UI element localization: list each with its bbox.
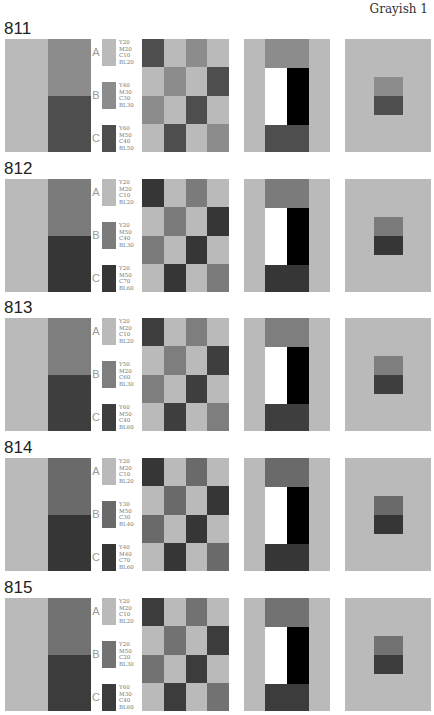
block-c [374, 96, 403, 115]
swatch-c: C Y60 M30 C40 BL60 [91, 684, 141, 711]
checker-cell [164, 458, 186, 486]
swatch-letter: C [91, 272, 101, 284]
checker-cell [164, 67, 186, 95]
checker-cell [207, 124, 229, 152]
inset-panel [345, 598, 431, 711]
checker-cell [186, 403, 208, 431]
contrast-panel [244, 598, 330, 711]
checker-cell [164, 207, 186, 235]
inset-panel [345, 179, 431, 292]
swatch-legend: A Y20 M20 C10 BL20 B Y50 M20 C60 BL30 C … [91, 318, 141, 431]
black-block [287, 68, 309, 125]
checker-cell [142, 543, 164, 571]
swatch-letter: C [91, 691, 101, 703]
block-b [374, 356, 403, 375]
contrast-panel [244, 179, 330, 292]
checker-cell [142, 179, 164, 207]
inset-panel [345, 458, 431, 571]
swatch-a: A Y20 M20 C10 BL20 [91, 458, 141, 485]
checker-cell [164, 683, 186, 711]
section-number: 814 [4, 439, 32, 457]
checker-cell [186, 375, 208, 403]
checker-cell [164, 124, 186, 152]
checker-cell [142, 403, 164, 431]
checker-cell [207, 67, 229, 95]
checker-cell [142, 486, 164, 514]
block-b [265, 458, 309, 487]
checker-cell [186, 626, 208, 654]
block-c [374, 375, 403, 394]
checker-cell [164, 96, 186, 124]
checker-cell [142, 236, 164, 264]
checker-cell [207, 179, 229, 207]
checker-cell [186, 458, 208, 486]
checker-cell [186, 515, 208, 543]
checker-cell [207, 458, 229, 486]
checker-cell [142, 318, 164, 346]
block-b [374, 217, 403, 236]
swatch-letter: C [91, 411, 101, 423]
checker-cell [142, 458, 164, 486]
swatch-legend: A Y20 M20 C10 BL20 B Y40 M30 C30 BL30 C … [91, 39, 141, 152]
block-b [374, 496, 403, 515]
checker-cell [142, 96, 164, 124]
checker-cell [164, 655, 186, 683]
swatch-chip [102, 125, 116, 152]
checker-cell [164, 179, 186, 207]
block-b [265, 179, 309, 208]
swatch-code: Y20 M20 C10 BL20 [119, 39, 134, 65]
black-block [287, 487, 309, 544]
swatch-chip [102, 684, 116, 711]
checker-cell [142, 39, 164, 67]
block-c [48, 655, 91, 711]
swatch-chip [102, 501, 116, 528]
white-block [265, 347, 287, 404]
checker-cell [207, 598, 229, 626]
checker-cell [142, 515, 164, 543]
swatch-letter: A [91, 605, 101, 617]
checkerboard-panel [142, 458, 229, 571]
checker-cell [207, 626, 229, 654]
swatch-chip [102, 598, 116, 625]
checker-cell [186, 486, 208, 514]
swatch-code: Y50 M20 C60 BL30 [119, 361, 134, 387]
checker-cell [186, 655, 208, 683]
checkerboard-panel [142, 318, 229, 431]
swatch-code: Y60 M50 C40 BL60 [119, 404, 134, 430]
checker-cell [186, 39, 208, 67]
inset-panel [345, 39, 431, 152]
swatch-c: C Y60 M50 C40 BL60 [91, 404, 141, 431]
checker-cell [142, 124, 164, 152]
white-block [265, 487, 287, 544]
swatch-letter: B [91, 368, 101, 380]
swatch-legend: A Y20 M20 C10 BL20 B Y20 M50 C40 BL30 C … [91, 179, 141, 292]
block-b [265, 598, 309, 627]
checker-cell [186, 96, 208, 124]
page-label: Grayish 1 [370, 2, 428, 16]
split-panel [5, 39, 91, 152]
swatch-chip [102, 179, 116, 206]
block-c [48, 515, 91, 571]
checker-cell [164, 543, 186, 571]
swatch-code: Y30 M50 C30 BL40 [119, 501, 134, 527]
checker-cell [164, 346, 186, 374]
checker-cell [186, 543, 208, 571]
checker-cell [207, 515, 229, 543]
swatch-chip [102, 82, 116, 109]
swatch-code: Y20 M50 C70 BL60 [119, 265, 134, 291]
swatch-code: Y20 M50 C40 BL30 [119, 222, 134, 248]
block-c [374, 515, 403, 534]
swatch-code: Y60 M50 C40 BL50 [119, 125, 134, 151]
checker-cell [164, 264, 186, 292]
swatch-code: Y40 M40 C70 BL60 [119, 544, 134, 570]
block-c [48, 236, 91, 292]
swatch-code: Y60 M30 C40 BL60 [119, 684, 134, 710]
swatch-a: A Y20 M20 C10 BL20 [91, 598, 141, 625]
checker-cell [207, 683, 229, 711]
split-panel [5, 458, 91, 571]
swatch-chip [102, 361, 116, 388]
split-panel [5, 318, 91, 431]
checker-cell [207, 236, 229, 264]
checker-cell [164, 403, 186, 431]
block-b [48, 39, 91, 96]
